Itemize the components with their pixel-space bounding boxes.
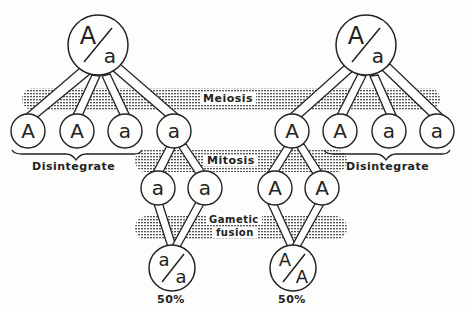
left-zygote-allele-bottom: a	[175, 268, 186, 286]
gametic-fusion-label-line2: fusion	[213, 228, 257, 238]
left-zygote-allele-top: a	[158, 251, 169, 269]
right-zygote-allele-top: A	[279, 251, 291, 269]
left-percentage: 50%	[157, 294, 185, 305]
right-mitosis-2-allele: A	[315, 178, 329, 198]
left-mitosis-2-allele: a	[199, 178, 211, 198]
left-zygote	[149, 245, 195, 291]
left-disintegrate-brace	[12, 150, 142, 160]
mitosis-label: Mitosis	[204, 155, 258, 166]
right-gamete-2-allele: A	[333, 121, 347, 141]
left-disintegrate-label: Disintegrate	[32, 161, 115, 172]
right-parent-allele-top: A	[348, 24, 364, 48]
meiosis-label: Meiosis	[200, 93, 256, 104]
right-gamete-4-allele: a	[431, 121, 443, 141]
left-gamete-4-allele: a	[168, 121, 180, 141]
left-parent-allele-top: A	[80, 24, 96, 48]
right-parent-allele-bottom: a	[372, 46, 384, 66]
left-parent-allele-bottom: a	[104, 46, 116, 66]
right-gamete-1-allele: A	[285, 121, 299, 141]
right-zygote	[270, 245, 316, 291]
right-zygote-allele-bottom: A	[296, 268, 308, 286]
left-gamete-1-allele: A	[21, 121, 35, 141]
right-disintegrate-label: Disintegrate	[346, 161, 429, 172]
right-percentage: 50%	[278, 294, 306, 305]
left-gamete-2-allele: A	[70, 121, 84, 141]
right-mitosis-1-allele: A	[268, 178, 282, 198]
left-mitosis-1-allele: a	[152, 178, 164, 198]
meiosis-mitosis-diagram: A a A a A A a a A A a a a a A A a a A A …	[0, 0, 465, 312]
gametic-fusion-label-line1: Gametic	[206, 215, 262, 225]
left-gamete-3-allele: a	[119, 121, 131, 141]
right-gamete-3-allele: a	[383, 121, 395, 141]
